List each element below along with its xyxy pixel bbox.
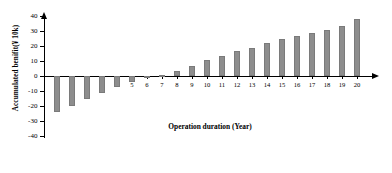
y-tick: 20 [40, 46, 44, 47]
bar [264, 43, 270, 76]
plot-area: 403020100-10-20-30-40 012345678910111213… [44, 14, 380, 138]
bar [144, 76, 150, 78]
y-tick-label: -30 [28, 117, 37, 125]
x-tick-label: 15 [279, 81, 286, 88]
bar [129, 76, 135, 82]
y-tick-label: 30 [30, 27, 37, 35]
bar [279, 39, 285, 76]
x-tick [297, 76, 298, 79]
x-tick-label: 19 [339, 81, 346, 88]
x-tick-label: 16 [294, 81, 301, 88]
y-tick-label: 40 [30, 12, 37, 20]
bar [99, 76, 105, 93]
x-tick-label: 12 [234, 81, 241, 88]
bar [189, 66, 195, 77]
x-tick [207, 76, 208, 79]
y-tick: -20 [40, 106, 44, 107]
y-tick-label: 10 [30, 57, 37, 65]
x-tick [357, 76, 358, 79]
y-tick: -30 [40, 121, 44, 122]
y-tick-label: 0 [34, 72, 38, 80]
x-tick [312, 76, 313, 79]
x-axis-line [44, 76, 373, 77]
x-tick-label: 9 [190, 81, 193, 88]
x-tick-label: 17 [309, 81, 316, 88]
y-tick: 0 [40, 76, 44, 77]
bar [204, 60, 210, 76]
x-axis-arrow-icon [372, 73, 379, 79]
bar [114, 76, 120, 87]
bar [339, 26, 345, 76]
bar [54, 76, 60, 112]
x-tick-label: 20 [354, 81, 361, 88]
bar [159, 75, 165, 77]
y-tick-label: -10 [28, 87, 37, 95]
bar [174, 71, 180, 76]
y-tick-label: -40 [28, 132, 37, 140]
y-tick: -10 [40, 91, 44, 92]
x-tick-label: 8 [175, 81, 178, 88]
y-tick: 40 [40, 16, 44, 17]
bar [219, 56, 225, 76]
y-tick: 30 [40, 31, 44, 32]
x-tick [342, 76, 343, 79]
x-tick-label: 6 [145, 81, 148, 88]
x-tick [267, 76, 268, 79]
x-tick-label: 13 [249, 81, 256, 88]
bar [309, 33, 315, 76]
bar [69, 76, 75, 106]
x-tick-label: 14 [264, 81, 271, 88]
y-tick: 10 [40, 61, 44, 62]
x-tick [252, 76, 253, 79]
x-tick-label: 18 [324, 81, 331, 88]
bar [84, 76, 90, 99]
x-tick [177, 76, 178, 79]
y-tick: -40 [40, 136, 44, 137]
chart-figure: Accumulated benifit(¥ 10k) 403020100-10-… [0, 0, 392, 173]
x-tick [327, 76, 328, 79]
x-tick-label: 11 [219, 81, 225, 88]
x-tick-label: 5 [130, 81, 133, 88]
x-tick [237, 76, 238, 79]
x-tick-label: 7 [160, 81, 163, 88]
bar [249, 48, 255, 77]
x-tick [192, 76, 193, 79]
x-axis-title: Operation duration (Year) [120, 122, 300, 131]
x-tick [282, 76, 283, 79]
y-tick-label: 20 [30, 42, 37, 50]
y-axis-title: Accumulated benifit(¥ 10k) [12, 3, 20, 133]
bar [354, 19, 360, 76]
bar [324, 30, 330, 77]
x-tick [222, 76, 223, 79]
bar [234, 51, 240, 76]
x-tick-label: 10 [204, 81, 211, 88]
y-tick-label: -20 [28, 102, 37, 110]
bar [294, 36, 300, 76]
